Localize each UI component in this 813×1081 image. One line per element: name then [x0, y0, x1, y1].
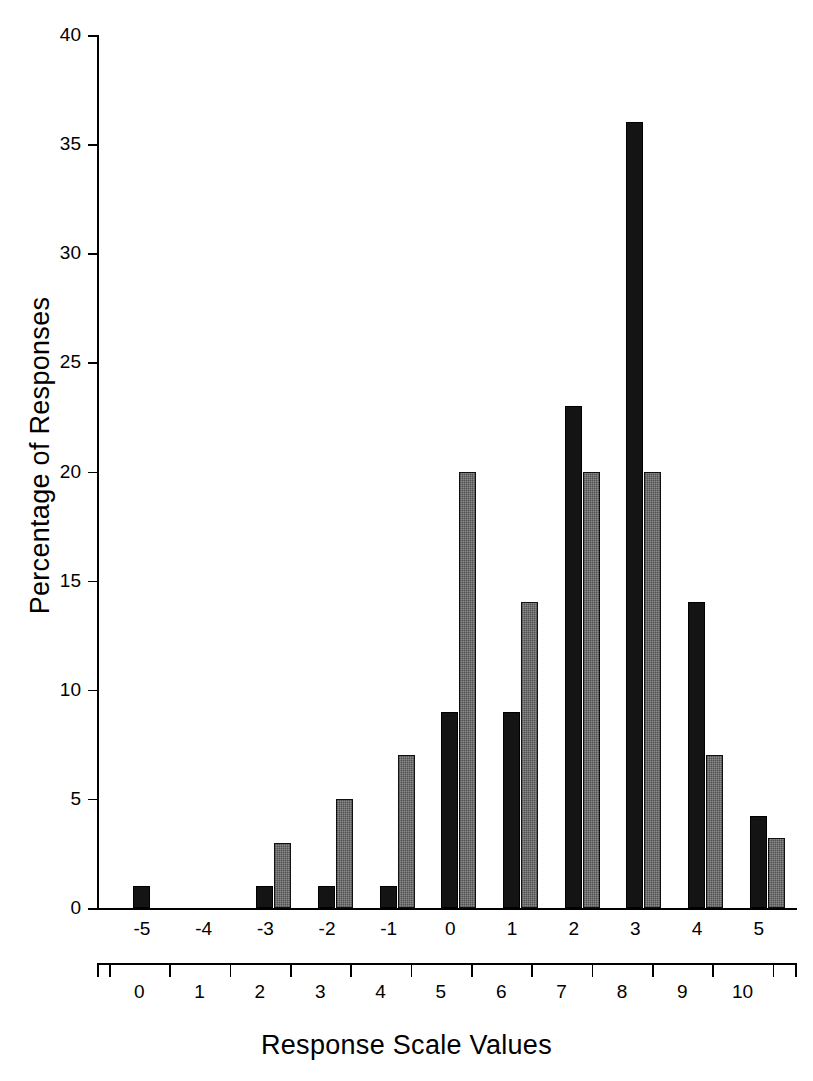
- bar: [380, 886, 397, 908]
- x-axis-line: [97, 908, 797, 910]
- bar: [688, 602, 705, 908]
- x-tick-label: -5: [122, 918, 162, 940]
- bar: [521, 602, 538, 908]
- secondary-tick-end: [795, 963, 797, 977]
- y-tick-label: 25: [60, 351, 81, 373]
- x-tick-label: 5: [739, 918, 779, 940]
- secondary-tick: [230, 963, 232, 977]
- secondary-axis-line: [97, 963, 797, 965]
- bar: [503, 712, 520, 908]
- secondary-scale-label: 5: [421, 981, 461, 1003]
- y-tick: 20: [88, 472, 97, 474]
- y-tick: 40: [88, 35, 97, 37]
- y-axis-line: [97, 35, 99, 908]
- y-tick-label: 40: [60, 24, 81, 46]
- secondary-scale-label: 9: [662, 981, 702, 1003]
- bar: [133, 886, 150, 908]
- bar: [768, 838, 785, 908]
- secondary-tick: [592, 963, 594, 977]
- secondary-scale-axis: 012345678910: [97, 963, 797, 964]
- bar: [274, 843, 291, 908]
- secondary-tick: [169, 963, 171, 977]
- bar: [626, 122, 643, 908]
- y-tick: 25: [88, 362, 97, 364]
- secondary-scale-label: 10: [723, 981, 763, 1003]
- y-tick: 15: [88, 581, 97, 583]
- secondary-tick: [411, 963, 413, 977]
- y-tick-label: 20: [60, 461, 81, 483]
- secondary-tick: [652, 963, 654, 977]
- x-tick-label: 2: [554, 918, 594, 940]
- secondary-tick: [109, 963, 111, 977]
- y-tick: 35: [88, 144, 97, 146]
- y-tick: 5: [88, 799, 97, 801]
- y-axis-title: Percentage of Responses: [25, 176, 56, 736]
- x-tick-label: 4: [677, 918, 717, 940]
- y-tick-label: 0: [70, 897, 81, 919]
- secondary-scale-label: 8: [602, 981, 642, 1003]
- bar: [583, 472, 600, 909]
- y-tick: 30: [88, 253, 97, 255]
- secondary-tick: [531, 963, 533, 977]
- x-axis-title: Response Scale Values: [0, 1030, 813, 1061]
- secondary-scale-label: 0: [119, 981, 159, 1003]
- y-tick: 10: [88, 690, 97, 692]
- secondary-tick: [471, 963, 473, 977]
- secondary-tick: [773, 963, 775, 977]
- bar: [644, 472, 661, 909]
- chart-figure: Percentage of Responses 0510152025303540…: [0, 0, 813, 1081]
- bar: [318, 886, 335, 908]
- y-tick-label: 30: [60, 242, 81, 264]
- bar: [459, 472, 476, 909]
- secondary-scale-label: 4: [361, 981, 401, 1003]
- bar: [398, 755, 415, 908]
- secondary-scale-label: 2: [240, 981, 280, 1003]
- secondary-scale-label: 6: [481, 981, 521, 1003]
- bar: [565, 406, 582, 908]
- x-tick-label: 0: [430, 918, 470, 940]
- secondary-scale-label: 1: [180, 981, 220, 1003]
- plot-area: 0510152025303540 -5-4-3-2-1012345: [97, 35, 797, 908]
- y-tick-label: 35: [60, 133, 81, 155]
- bar: [750, 816, 767, 908]
- secondary-scale-label: 7: [542, 981, 582, 1003]
- secondary-tick: [350, 963, 352, 977]
- secondary-tick: [712, 963, 714, 977]
- secondary-tick-start: [97, 963, 99, 977]
- bar: [256, 886, 273, 908]
- bar: [441, 712, 458, 908]
- bar: [706, 755, 723, 908]
- y-tick-label: 5: [70, 788, 81, 810]
- x-tick-label: -2: [307, 918, 347, 940]
- y-tick: 0: [88, 908, 97, 910]
- x-tick-label: 3: [615, 918, 655, 940]
- x-tick-label: -3: [245, 918, 285, 940]
- x-tick-label: -4: [184, 918, 224, 940]
- bar: [336, 799, 353, 908]
- secondary-tick: [290, 963, 292, 977]
- y-tick-label: 15: [60, 570, 81, 592]
- secondary-scale-label: 3: [300, 981, 340, 1003]
- x-tick-label: 1: [492, 918, 532, 940]
- x-tick-label: -1: [369, 918, 409, 940]
- y-tick-label: 10: [60, 679, 81, 701]
